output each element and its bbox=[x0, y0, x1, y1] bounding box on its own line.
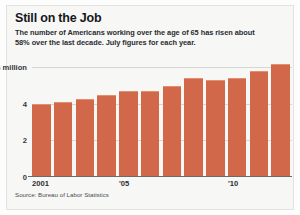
x-axis-labels: 2001'05'10 bbox=[32, 179, 290, 191]
bar-2005 bbox=[119, 91, 138, 177]
bar-2001 bbox=[32, 104, 51, 177]
chart-subtitle: The number of Americans working over the… bbox=[15, 28, 263, 48]
bar-2008 bbox=[184, 78, 203, 177]
y-tick-label-6: 6 million bbox=[0, 63, 27, 72]
x-tick-label-2001: 2001 bbox=[32, 179, 49, 188]
bar-2006 bbox=[141, 91, 160, 177]
plot-area bbox=[32, 62, 290, 177]
source-note: Source: Bureau of Labor Statistics bbox=[15, 191, 109, 198]
y-tick-label-4: 4 bbox=[23, 99, 27, 108]
bar-2004 bbox=[97, 95, 116, 177]
bar-2003 bbox=[76, 99, 95, 177]
bar-2012 bbox=[271, 64, 290, 177]
bar-2002 bbox=[54, 102, 73, 177]
y-tick-label-2: 2 bbox=[23, 136, 27, 145]
bar-series bbox=[32, 62, 290, 177]
bar-2009 bbox=[206, 80, 225, 177]
chart-figure: Still on the Job The number of Americans… bbox=[0, 0, 300, 215]
x-axis-line bbox=[28, 176, 292, 177]
bar-2010 bbox=[228, 78, 247, 177]
x-tick-label-10: '10 bbox=[228, 179, 238, 188]
chart-title: Still on the Job bbox=[15, 11, 101, 25]
bar-2007 bbox=[163, 86, 182, 177]
bar-2011 bbox=[250, 71, 269, 177]
y-axis-labels: 0246 million bbox=[0, 62, 30, 177]
x-tick-label-05: '05 bbox=[119, 179, 129, 188]
y-tick-label-0: 0 bbox=[23, 173, 27, 182]
